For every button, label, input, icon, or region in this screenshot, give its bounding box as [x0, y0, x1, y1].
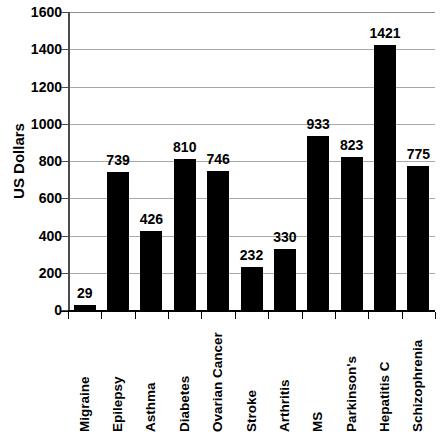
y-axis-tick-label: 1600 [20, 5, 62, 19]
y-axis-tick-label: 1000 [20, 117, 62, 131]
x-axis-tick-mark [268, 312, 269, 319]
bars-layer: 297394268107462323309338231421775 [68, 12, 435, 310]
x-axis-tick-mark [335, 312, 336, 319]
y-axis-tick-mark [61, 49, 68, 50]
x-axis-category-label: MS [311, 412, 325, 432]
y-axis-tick-mark [61, 12, 68, 13]
bar[interactable] [207, 171, 229, 310]
y-axis-tick-mark [61, 236, 68, 237]
bar-value-label: 330 [261, 230, 309, 244]
bar[interactable] [140, 231, 162, 310]
bar-value-label: 426 [127, 212, 175, 226]
y-axis-tick-mark [61, 124, 68, 125]
x-axis-tick-mark [368, 312, 369, 319]
bar-value-label: 823 [328, 138, 376, 152]
bar-value-label: 1421 [361, 26, 409, 40]
y-axis-tick-labels: 16001400120010008006004002000 [18, 0, 62, 434]
bar-value-label: 739 [94, 153, 142, 167]
bar-value-label: 933 [294, 117, 342, 131]
y-axis-tick-label: 1400 [20, 42, 62, 56]
x-axis-tick-mark [402, 312, 403, 319]
y-axis-tick-mark [61, 310, 68, 311]
x-axis-tick-mark [302, 312, 303, 319]
bar[interactable] [74, 305, 96, 310]
x-axis-tick-mark [135, 312, 136, 319]
y-axis-tick-label: 1200 [20, 80, 62, 94]
bar[interactable] [174, 159, 196, 310]
y-axis-tick-label: 0 [20, 303, 62, 317]
bar-value-label: 746 [194, 152, 242, 166]
x-axis-tick-mark [101, 312, 102, 319]
bar-value-label: 232 [228, 248, 276, 262]
x-axis-tick-mark [201, 312, 202, 319]
x-axis-tick-mark [68, 312, 69, 319]
bar[interactable] [374, 45, 396, 310]
y-axis-tick-label: 200 [20, 266, 62, 280]
bar[interactable] [307, 136, 329, 310]
x-axis-line [60, 310, 435, 312]
y-axis-tick-mark [61, 161, 68, 162]
bar-value-label: 29 [61, 286, 109, 300]
bar[interactable] [341, 157, 363, 310]
x-axis-tick-mark [168, 312, 169, 319]
y-axis-tick-mark [61, 198, 68, 199]
bar[interactable] [274, 249, 296, 310]
y-axis-tick-mark [61, 273, 68, 274]
bar-value-label: 775 [394, 147, 440, 161]
x-axis-category-label: Hepatitis C [378, 361, 392, 432]
bar[interactable] [241, 267, 263, 310]
x-axis-category-label: Asthma [144, 382, 158, 432]
x-axis-category-label: Schizophrenia [411, 340, 425, 432]
y-axis-tick-label: 600 [20, 191, 62, 205]
y-axis-tick-mark [61, 87, 68, 88]
x-axis-category-label: Stroke [245, 390, 259, 432]
x-axis-category-label: Parkinson's [345, 356, 359, 432]
x-axis-category-label: Epilepsy [111, 376, 125, 432]
y-axis-tick-label: 400 [20, 229, 62, 243]
x-axis-category-labels: MigraineEpilepsyAsthmaDiabetesOvarian Ca… [68, 318, 435, 434]
x-axis-category-label: Ovarian Cancer [211, 332, 225, 432]
x-axis-category-label: Diabetes [178, 376, 192, 432]
x-axis-tick-mark [435, 312, 436, 319]
bar[interactable] [407, 166, 429, 310]
x-axis-category-label: Migraine [78, 376, 92, 432]
bar[interactable] [107, 172, 129, 310]
x-axis-category-label: Arthritis [278, 379, 292, 432]
x-axis-tick-mark [235, 312, 236, 319]
y-axis-tick-label: 800 [20, 154, 62, 168]
